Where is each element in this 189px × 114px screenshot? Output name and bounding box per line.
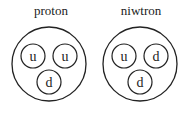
neutron-label: niwtron: [121, 3, 162, 18]
quark-diagram: proton u u d niwtron u d d: [0, 0, 189, 114]
quark-label: u: [121, 49, 128, 64]
quark-label: d: [153, 49, 160, 64]
quark-label: u: [30, 49, 37, 64]
quark-label: d: [137, 75, 144, 90]
neutron-group: niwtron u d d: [103, 3, 177, 101]
quark-label: d: [46, 75, 53, 90]
quark-label: u: [62, 49, 69, 64]
proton-label: proton: [34, 3, 68, 18]
proton-group: proton u u d: [12, 3, 86, 101]
